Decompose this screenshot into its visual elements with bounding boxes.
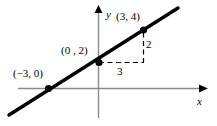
x-axis-label: x: [197, 96, 202, 107]
plotted-line: [9, 8, 178, 115]
point-marker-0-2: [95, 59, 102, 66]
point-marker-neg3-0: [45, 85, 52, 92]
point-label-0-2: (0 , 2): [61, 45, 88, 56]
point-marker-3-4: [140, 26, 147, 33]
y-axis-arrowhead: [95, 5, 103, 13]
x-axis-arrowhead: [199, 85, 208, 93]
point-label-neg3-0: (−3, 0): [13, 68, 43, 79]
y-axis-label: y: [106, 9, 111, 20]
rise-length-label: 2: [146, 39, 152, 50]
line-graph-figure: (3, 4) (0 , 2) (−3, 0) 2 3 x y: [0, 0, 217, 126]
run-length-label: 3: [117, 66, 123, 77]
point-label-3-4: (3, 4): [116, 11, 140, 22]
